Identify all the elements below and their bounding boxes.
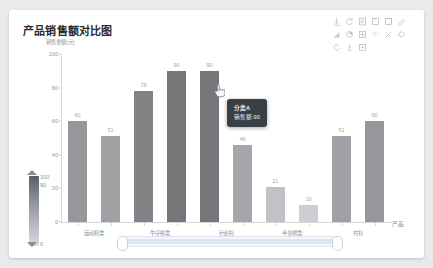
plot-area: 100806040200 60517890904621105160 运动鞋类牛仔… (61, 54, 391, 222)
magic-type-stack-icon[interactable] (382, 15, 394, 27)
bar-value-label: 60 (372, 112, 378, 118)
visualmap-handle-bottom[interactable] (27, 242, 37, 247)
bar-cell[interactable]: 46 (226, 54, 259, 222)
bar-series: 60517890904621105160 (61, 54, 391, 222)
x-axis-tick-mark (276, 222, 277, 226)
bar-value-label: 90 (174, 62, 180, 68)
bar-cell[interactable]: 60 (358, 54, 391, 222)
brush-icon[interactable] (395, 15, 407, 27)
grid-icon[interactable] (356, 28, 368, 40)
x-axis-tick-mark (78, 222, 79, 226)
bar[interactable]: 10 (299, 205, 318, 222)
chart-tooltip: 分类A 销售额:90 (227, 99, 267, 127)
magic-type-line-icon[interactable] (330, 28, 342, 40)
bar-value-label: 51 (339, 127, 345, 133)
bar[interactable]: 21 (266, 187, 285, 222)
magic-type-bar-icon[interactable] (369, 15, 381, 27)
bar[interactable]: 46 (233, 145, 252, 222)
y-axis-title: 销售金额(元) (46, 38, 75, 46)
chart-card: 产品销售额对比图 (9, 10, 424, 258)
page-title: 产品销售额对比图 (23, 22, 113, 38)
data-zoom-icon[interactable] (330, 15, 342, 27)
restore-icon[interactable] (395, 28, 407, 40)
bar[interactable]: 51 (332, 136, 351, 222)
save-image-icon[interactable] (343, 41, 355, 53)
y-axis-tick-label: 100 (49, 51, 58, 57)
screenshot-root: 产品销售额对比图 (0, 0, 433, 268)
bar-cell[interactable]: 21 (259, 54, 292, 222)
bar[interactable]: 60 (365, 121, 384, 222)
x-axis-category-label: 衬衫 (353, 229, 363, 237)
bar[interactable]: 51 (101, 136, 120, 222)
visualmap-min-label: 0 (40, 241, 43, 247)
datazoom-handle-right[interactable] (332, 236, 343, 251)
fullscreen-icon[interactable] (356, 41, 368, 53)
bar-value-label: 60 (75, 112, 81, 118)
bar-value-label: 21 (273, 178, 279, 184)
bar-value-label: 10 (306, 196, 312, 202)
datazoom-handle-left[interactable] (117, 236, 128, 251)
datazoom-selected-range[interactable] (122, 239, 338, 244)
bar-cell[interactable]: 78 (127, 54, 160, 222)
visualmap-max-label: 100 (40, 174, 49, 180)
datazoom-slider[interactable] (119, 236, 341, 247)
bar[interactable]: 60 (68, 121, 87, 222)
pie-chart-icon[interactable] (343, 28, 355, 40)
x-axis-tick-mark (243, 222, 244, 226)
visualmap-gradient-bar[interactable] (29, 176, 39, 246)
bar-cell[interactable]: 90 (160, 54, 193, 222)
x-axis-tick-mark (177, 222, 178, 226)
bar-value-label: 78 (141, 82, 147, 88)
x-axis-tick-mark (111, 222, 112, 226)
x-axis-tick-mark (375, 222, 376, 226)
x-axis-tick-mark (210, 222, 211, 226)
bar-cell[interactable]: 51 (325, 54, 358, 222)
x-axis-category-label: 运动鞋类 (84, 229, 104, 237)
bar-cell[interactable]: 90 (193, 54, 226, 222)
refresh-icon[interactable] (330, 41, 342, 53)
tooltip-series-name: 分类A (234, 104, 260, 113)
data-zoom-reset-icon[interactable] (343, 15, 355, 27)
x-axis-tick-mark (342, 222, 343, 226)
x-axis-tick-mark (144, 222, 145, 226)
brush-clear-icon[interactable] (369, 28, 381, 40)
visualmap-current-label: 90 (40, 182, 46, 188)
data-view-icon[interactable] (356, 15, 368, 27)
tooltip-value: 销售额:90 (234, 113, 260, 122)
bar-cell[interactable]: 10 (292, 54, 325, 222)
bar-value-label: 46 (240, 136, 246, 142)
chart-toolbox[interactable] (330, 15, 412, 53)
brush-polygon-icon[interactable] (382, 28, 394, 40)
visualmap-handle-top[interactable] (27, 170, 37, 175)
bar-value-label: 51 (108, 127, 114, 133)
bar-cell[interactable]: 51 (94, 54, 127, 222)
mouse-cursor-pointer (214, 84, 225, 98)
bar-cell[interactable]: 60 (61, 54, 94, 222)
bar[interactable]: 90 (167, 71, 186, 222)
bar-value-label: 90 (207, 62, 213, 68)
x-axis-tick-mark (309, 222, 310, 226)
bar[interactable]: 78 (134, 91, 153, 222)
x-axis-title: 产品 (392, 220, 404, 228)
